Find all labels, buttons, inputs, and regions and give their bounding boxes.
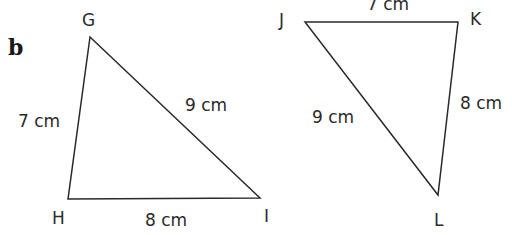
- triangles-drawing: [0, 0, 512, 235]
- triangle-ghi: [68, 37, 260, 199]
- vertex-l-label: L: [434, 212, 443, 229]
- vertex-g-label: G: [82, 12, 95, 29]
- vertex-j-label: J: [279, 12, 284, 29]
- side-gh-label: 7 cm: [18, 113, 60, 130]
- side-kl-label: 8 cm: [460, 95, 502, 112]
- vertex-i-label: I: [264, 208, 269, 225]
- side-jk-label: 7 cm: [367, 0, 409, 13]
- side-hi-label: 8 cm: [145, 212, 187, 229]
- side-gi-label: 9 cm: [185, 97, 227, 114]
- side-jl-label: 9 cm: [312, 109, 354, 126]
- vertex-k-label: K: [470, 11, 481, 28]
- vertex-h-label: H: [52, 210, 65, 227]
- diagram-canvas: b G H I 7 cm 9 cm 8 cm J K L 7 cm 8 cm 9…: [0, 0, 512, 235]
- part-label: b: [8, 36, 23, 58]
